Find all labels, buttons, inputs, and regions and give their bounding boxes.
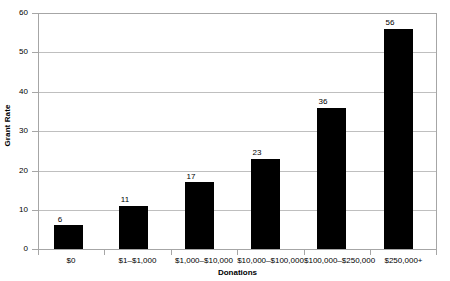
plot-area [38,13,437,250]
bar [119,206,148,249]
x-axis-tick-label: $250,000+ [370,256,437,265]
bar [54,225,83,249]
y-axis-tick-label: 60 [2,9,28,17]
x-axis-tick-mark [171,250,172,255]
x-axis-tick-label: $1–$1,000 [104,256,171,265]
gridline [39,92,436,93]
bar-value-label: 17 [171,173,211,181]
x-axis-tick-mark [436,250,437,255]
y-axis-tick-label: 0 [2,245,28,253]
x-axis-tick-label: $0 [38,256,104,265]
x-axis-tick-mark [104,250,105,255]
y-axis-tick-label: 20 [2,167,28,175]
bar-value-label: 56 [370,19,410,27]
gridline [39,52,436,53]
bar-value-label: 11 [105,196,145,204]
x-axis-title: Donations [38,268,437,277]
x-axis-tick-mark [370,250,371,255]
gridline [39,171,436,172]
x-axis-tick-label: $10,000–$100,000 [237,256,304,265]
bar [251,159,280,249]
bar [185,182,214,249]
y-axis-tick-label: 40 [2,88,28,96]
bar-value-label: 6 [40,216,80,224]
x-axis-tick-mark [38,250,39,255]
x-axis-tick-mark [237,250,238,255]
y-axis-tick-label: 50 [2,48,28,56]
gridline [39,210,436,211]
y-axis-tick-label: 10 [2,206,28,214]
bar-chart: Grant Rate 60 50 40 30 20 10 0 6 11 17 2… [0,0,450,281]
x-axis-tick-label: $100,000–$250,000 [304,256,370,265]
bar-value-label: 36 [303,98,343,106]
y-axis-tick-label: 30 [2,127,28,135]
gridline [39,131,436,132]
bar-value-label: 23 [237,149,277,157]
x-axis-tick-mark [304,250,305,255]
bar [317,108,346,250]
x-axis-tick-label: $1,000–$10,000 [171,256,237,265]
bar [384,29,413,249]
